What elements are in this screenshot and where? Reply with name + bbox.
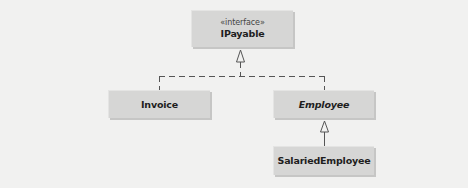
class-box-employee[interactable]: Employee bbox=[273, 90, 374, 118]
class-name-invoice: Invoice bbox=[141, 99, 178, 111]
class-name-employee: Employee bbox=[299, 99, 349, 111]
class-box-invoice[interactable]: Invoice bbox=[108, 90, 210, 118]
uml-diagram: «interface» IPayable Invoice Employee Sa… bbox=[0, 0, 468, 188]
stereotype-label: «interface» bbox=[220, 18, 264, 28]
class-name-ipayable: IPayable bbox=[221, 28, 265, 40]
realization-connector bbox=[159, 62, 325, 90]
class-box-salaried-employee[interactable]: SalariedEmployee bbox=[273, 146, 374, 175]
class-box-ipayable[interactable]: «interface» IPayable bbox=[191, 10, 293, 47]
realization-arrowhead-icon bbox=[237, 50, 245, 62]
class-name-salaried-employee: SalariedEmployee bbox=[278, 155, 371, 167]
generalization-arrowhead-icon bbox=[321, 121, 329, 132]
